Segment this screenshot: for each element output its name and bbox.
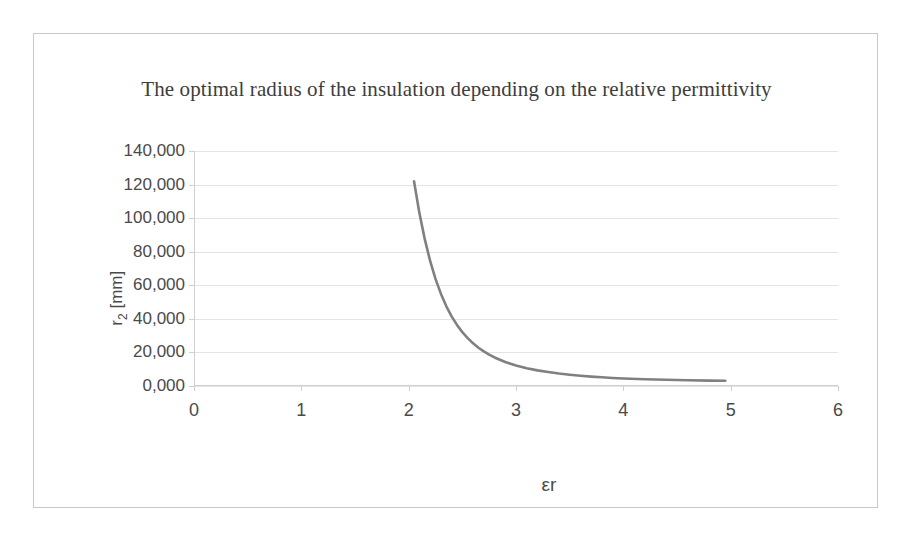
- y-axis-title-base: r: [107, 320, 126, 326]
- y-tick-label: 80,000: [133, 242, 185, 262]
- x-tick-mark: [516, 386, 517, 391]
- x-tick-label: 3: [511, 400, 521, 421]
- y-tick-label: 60,000: [133, 275, 185, 295]
- y-axis-title: r2 [mm]: [107, 271, 129, 326]
- y-tick-label: 100,000: [124, 208, 185, 228]
- y-tick-label: 40,000: [133, 309, 185, 329]
- series-plot: [194, 151, 838, 386]
- x-tick-mark: [409, 386, 410, 391]
- x-tick-label: 1: [296, 400, 306, 421]
- x-tick-mark: [194, 386, 195, 391]
- y-tick-label: 120,000: [124, 175, 185, 195]
- y-axis-title-unit: [mm]: [107, 271, 126, 314]
- x-tick-mark: [838, 386, 839, 391]
- y-tick-label: 20,000: [133, 342, 185, 362]
- x-tick-mark: [623, 386, 624, 391]
- y-axis-title-subscript: 2: [116, 313, 130, 320]
- chart-figure-frame: The optimal radius of the insulation dep…: [33, 33, 878, 508]
- series-line: [414, 181, 725, 381]
- x-tick-label: 6: [833, 400, 843, 421]
- x-tick-label: 0: [189, 400, 199, 421]
- chart-title: The optimal radius of the insulation dep…: [34, 77, 879, 102]
- x-tick-label: 5: [726, 400, 736, 421]
- plot-area: 0,00020,00040,00060,00080,000100,000120,…: [194, 151, 838, 386]
- x-tick-label: 2: [404, 400, 414, 421]
- y-tick-label: 0,000: [142, 376, 185, 396]
- x-tick-mark: [301, 386, 302, 391]
- x-tick-mark: [731, 386, 732, 391]
- y-tick-label: 140,000: [124, 141, 185, 161]
- x-tick-label: 4: [618, 400, 628, 421]
- x-axis-title: εr: [227, 474, 871, 496]
